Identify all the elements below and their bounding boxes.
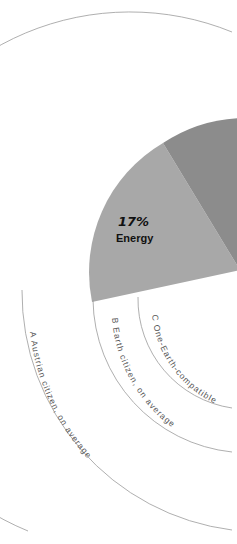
footprint-diagram: 17% Energy A Austrian citizen, on averag… [0, 0, 237, 544]
slice-label: Energy [116, 232, 154, 244]
slice-percent: 17% [118, 214, 149, 229]
ring-label-c: C One-Earth-compatible [150, 314, 219, 406]
ring-arc-c [138, 297, 232, 408]
ring-label-a: A Austrian citizen, on average [28, 331, 94, 461]
